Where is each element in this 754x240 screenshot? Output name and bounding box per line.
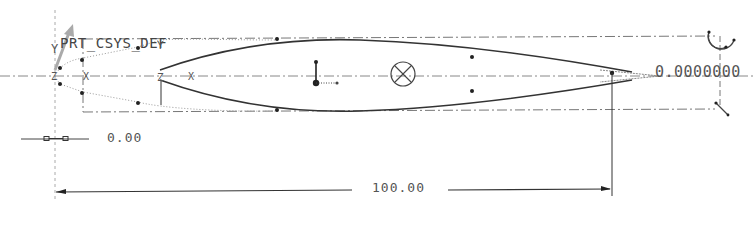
secondary-axis-x-label: X — [188, 72, 194, 82]
csys-axis-z-label: Z — [51, 72, 57, 82]
csys-axis-x-label: X — [83, 72, 89, 82]
chord-length-dimension-value[interactable]: 100.00 — [372, 181, 425, 194]
upper-bound-line — [83, 36, 715, 39]
angle-dimension-value[interactable]: 0.0000000 — [655, 65, 741, 80]
csys-name-label[interactable]: PRT_CSYS_DEF — [60, 36, 167, 50]
chord-length-dimension-line[interactable] — [56, 186, 611, 194]
secondary-axis-y-label: Y — [157, 40, 164, 51]
axis-into-page-icon — [391, 62, 415, 86]
rotate-handle-icon[interactable] — [707, 30, 735, 49]
offset-dimension-value[interactable]: 0.00 — [107, 131, 142, 144]
csys-axis-y-label: Y — [51, 43, 58, 55]
centroid-frame-icon — [313, 60, 339, 86]
airfoil-lower-surface[interactable] — [160, 80, 632, 111]
skew-handle-icon[interactable] — [714, 101, 729, 116]
secondary-axis-z-label: Z — [157, 72, 164, 83]
